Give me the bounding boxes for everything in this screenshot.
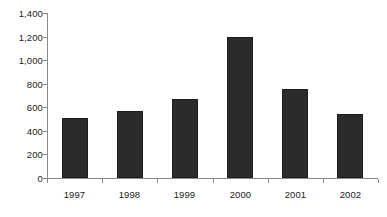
- bar: [227, 37, 253, 178]
- bar: [117, 111, 143, 178]
- x-axis-category-label: 2000: [213, 190, 268, 200]
- x-tick-mark: [47, 179, 48, 183]
- y-tick-label: 1,000: [19, 56, 43, 66]
- x-tick-mark: [268, 179, 269, 183]
- y-axis-line: [47, 13, 48, 179]
- bar: [337, 114, 363, 178]
- y-tick-mark: [43, 37, 47, 38]
- y-axis-label-group: 1,400 1,200 1,000 800 600 400 200 0: [0, 0, 43, 217]
- y-tick-label: 1,200: [19, 33, 43, 43]
- x-tick-mark: [102, 179, 103, 183]
- x-tick-mark: [213, 179, 214, 183]
- x-axis-category-label: 1998: [102, 190, 157, 200]
- y-tick-mark: [43, 131, 47, 132]
- y-tick-mark: [43, 13, 47, 14]
- y-tick-label: 200: [27, 150, 43, 160]
- bar: [62, 118, 88, 178]
- y-tick-mark: [43, 60, 47, 61]
- x-axis-category-label: 2002: [323, 190, 378, 200]
- x-tick-mark: [157, 179, 158, 183]
- y-tick-mark: [43, 107, 47, 108]
- bar: [172, 99, 198, 178]
- y-tick-label: 800: [27, 80, 43, 90]
- y-tick-label: 600: [27, 103, 43, 113]
- x-axis-category-label: 1997: [47, 190, 102, 200]
- y-tick-mark: [43, 84, 47, 85]
- x-tick-mark: [378, 179, 379, 183]
- x-axis-category-label: 2001: [268, 190, 323, 200]
- y-tick-label: 1,400: [19, 9, 43, 19]
- bar: [282, 89, 308, 178]
- y-tick-label: 400: [27, 127, 43, 137]
- y-tick-mark: [43, 154, 47, 155]
- x-tick-mark: [323, 179, 324, 183]
- bar-chart: 1,400 1,200 1,000 800 600 400 200 0 1997…: [0, 0, 387, 217]
- x-axis-category-label: 1999: [157, 190, 212, 200]
